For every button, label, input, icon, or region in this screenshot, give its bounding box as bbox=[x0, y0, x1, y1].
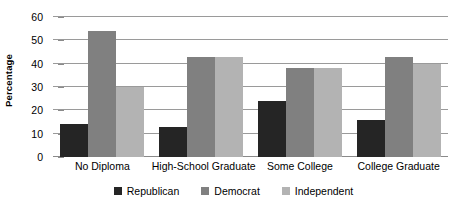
x-axis-tick-label: Some College bbox=[251, 160, 350, 172]
bar bbox=[314, 68, 342, 157]
legend-swatch-icon bbox=[201, 187, 209, 195]
x-axis-tick-labels: No DiplomaHigh-School GraduateSome Colle… bbox=[53, 160, 448, 176]
x-axis-tick-label: College Graduate bbox=[349, 160, 448, 172]
bar-group bbox=[53, 17, 152, 157]
bar bbox=[385, 57, 413, 157]
bar-chart-figure: Percentage 0102030405060 No DiplomaHigh-… bbox=[0, 0, 467, 212]
bar bbox=[116, 87, 144, 157]
legend-entry[interactable]: Republican bbox=[114, 185, 180, 197]
y-axis-tick-label: 10 bbox=[13, 129, 43, 139]
chart-legend: RepublicanDemocratIndependent bbox=[0, 185, 467, 197]
bars-layer bbox=[53, 17, 448, 157]
bar-group bbox=[152, 17, 251, 157]
legend-entry[interactable]: Democrat bbox=[201, 185, 260, 197]
y-axis-tick-labels: 0102030405060 bbox=[13, 17, 49, 157]
bar bbox=[258, 101, 286, 157]
legend-swatch-icon bbox=[114, 187, 122, 195]
y-axis-tick-label: 50 bbox=[13, 35, 43, 45]
legend-swatch-icon bbox=[282, 187, 290, 195]
bar-group bbox=[349, 17, 448, 157]
bar bbox=[215, 57, 243, 157]
y-axis-tick-label: 20 bbox=[13, 105, 43, 115]
bar bbox=[60, 124, 88, 157]
bar bbox=[187, 57, 215, 157]
y-axis-tick-label: 30 bbox=[13, 82, 43, 92]
bar bbox=[286, 68, 314, 157]
bar bbox=[88, 31, 116, 157]
y-axis-tick-label: 40 bbox=[13, 59, 43, 69]
bar-group bbox=[251, 17, 350, 157]
legend-entry[interactable]: Independent bbox=[282, 185, 353, 197]
legend-label: Republican bbox=[127, 185, 180, 197]
bar bbox=[413, 64, 441, 157]
x-axis-tick-label: No Diploma bbox=[53, 160, 152, 172]
bar bbox=[159, 127, 187, 157]
y-axis-tick-label: 60 bbox=[13, 12, 43, 22]
plot-area bbox=[53, 17, 448, 157]
bar bbox=[357, 120, 385, 157]
y-axis-tick-mark bbox=[58, 157, 64, 158]
x-axis-tick-label: High-School Graduate bbox=[152, 160, 251, 172]
legend-label: Independent bbox=[295, 185, 353, 197]
legend-label: Democrat bbox=[214, 185, 260, 197]
y-axis-tick-label: 0 bbox=[13, 152, 43, 162]
